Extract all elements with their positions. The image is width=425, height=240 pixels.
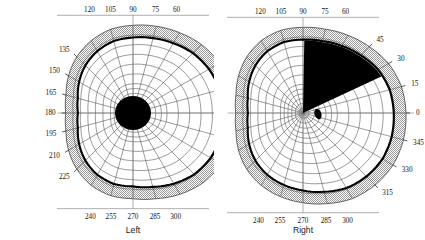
angle-tick-label: 285	[321, 217, 332, 225]
angle-tick-label: 60	[342, 8, 350, 16]
visual-field-svg: 1201059075602402552702853001351501651801…	[0, 0, 425, 240]
angle-tick-label: 270	[298, 217, 309, 225]
angle-tick-label: 225	[59, 173, 70, 181]
visual-field-figure: 1201059075602402552702853001351501651801…	[0, 0, 425, 240]
angle-tick-label: 240	[253, 217, 264, 225]
angle-tick-label: 30	[397, 55, 405, 63]
angle-tick-label: 150	[49, 67, 60, 75]
angle-tick-label: 120	[255, 8, 266, 16]
angle-tick-label: 45	[376, 36, 384, 44]
angle-tick-label: 105	[105, 6, 116, 14]
angle-tick-label: 240	[85, 213, 96, 221]
angle-tick-label: 330	[402, 166, 413, 174]
angle-tick-label: 210	[49, 152, 60, 160]
angle-tick-label: 90	[129, 6, 137, 14]
angle-tick-label: 120	[84, 6, 95, 14]
angle-tick-label: 255	[106, 213, 117, 221]
angle-tick-label: 75	[321, 8, 329, 16]
angle-tick-label: 90	[299, 8, 307, 16]
angle-tick-label: 135	[59, 46, 70, 54]
angle-tick-label: 105	[276, 8, 287, 16]
angle-tick-label: 300	[342, 217, 353, 225]
angle-tick-label: 255	[275, 217, 286, 225]
angle-tick-label: 180	[45, 109, 56, 117]
left-eye-caption: Left	[126, 225, 141, 235]
angle-tick-label: 165	[46, 89, 57, 97]
right-eye-caption: Right	[293, 225, 314, 235]
angle-tick-label: 285	[150, 213, 161, 221]
angle-tick-label: 300	[170, 213, 181, 221]
angle-tick-label: 0	[416, 109, 420, 117]
angle-tick-label: 75	[152, 6, 160, 14]
central-scotoma-shape	[115, 96, 151, 130]
angle-tick-label: 315	[382, 189, 393, 197]
figure-background	[0, 0, 425, 240]
angle-tick-label: 345	[413, 139, 424, 147]
angle-tick-label: 195	[46, 130, 57, 138]
left-central-scotoma	[115, 96, 151, 130]
angle-tick-label: 60	[173, 6, 181, 14]
angle-tick-label: 270	[128, 213, 139, 221]
angle-tick-label: 15	[411, 80, 419, 88]
